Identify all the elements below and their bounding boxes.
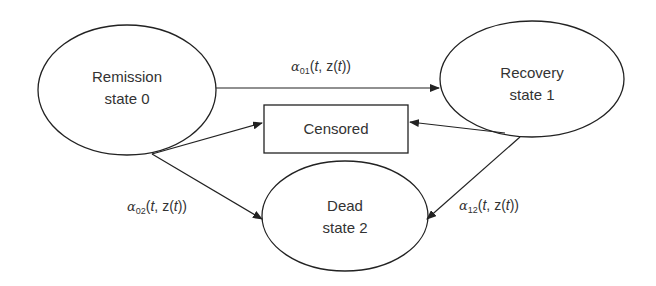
recovery-label: Recovery state 1 — [500, 62, 563, 106]
edge-label-alpha02: α02(t, z(t)) — [127, 198, 187, 216]
remission-label-line1: Remission — [92, 66, 162, 88]
edge-label-alpha12: α12(t, z(t)) — [459, 197, 519, 215]
censored-label: Censored — [303, 118, 368, 140]
dead-label-line1: Dead — [322, 195, 367, 217]
censored-label-text: Censored — [303, 118, 368, 140]
dead-label: Dead state 2 — [322, 195, 367, 239]
remission-label-line2: state 0 — [92, 88, 162, 110]
edge-recovery-to-censored — [410, 122, 505, 133]
edge-remission-to-censored — [152, 123, 262, 154]
remission-label: Remission state 0 — [92, 66, 162, 110]
dead-label-line2: state 2 — [322, 217, 367, 239]
recovery-label-line1: Recovery — [500, 62, 563, 84]
diagram-canvas — [0, 0, 656, 286]
edge-label-alpha01: α01(t, z(t)) — [291, 58, 351, 76]
recovery-label-line2: state 1 — [500, 84, 563, 106]
